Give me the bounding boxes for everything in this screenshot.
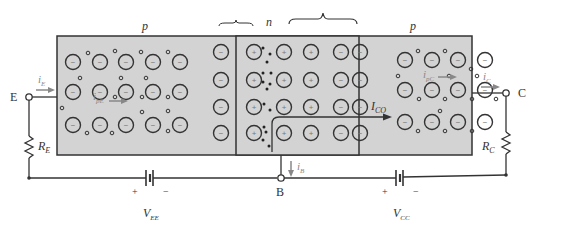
collector-label: C [518,86,526,100]
emitter-terminal[interactable] [26,94,32,100]
svg-text:+: + [309,76,314,85]
svg-text:+: + [309,129,314,138]
svg-text:−: − [151,88,156,97]
svg-text:−: − [219,76,224,85]
vee-label: VEE [143,206,160,222]
electron [270,72,273,75]
svg-text:−: − [430,118,435,127]
svg-text:+: + [282,103,287,112]
electron [262,81,265,84]
svg-text:+: + [252,48,257,57]
svg-text:−: − [219,48,224,57]
svg-text:+: + [309,48,314,57]
re-resistor-icon [25,136,33,158]
svg-text:−: − [483,56,488,65]
electron [262,47,265,50]
vcc-battery-icon [396,170,403,186]
hole [475,74,479,78]
electron [268,145,271,148]
electron [266,88,269,91]
electron [269,83,272,86]
svg-text:−: − [483,118,488,127]
svg-text:−: − [339,76,344,85]
ic-arrowhead-icon [493,84,500,90]
svg-text:−: − [124,88,129,97]
electron [262,72,265,75]
svg-text:−: − [403,118,408,127]
emitter-label: E [10,90,17,104]
vcc-plus: + [382,186,388,197]
hole [494,97,498,101]
svg-text:−: − [358,48,363,57]
svg-text:−: − [430,56,435,65]
svg-text:−: − [178,88,183,97]
rc-label: RC [481,139,495,155]
svg-text:−: − [358,103,363,112]
rc-resistor-icon [502,132,510,154]
electron [263,126,266,129]
svg-text:−: − [403,86,408,95]
vee-plus: + [132,186,138,197]
svg-text:−: − [403,56,408,65]
svg-text:−: − [71,88,76,97]
vee-minus: − [163,186,169,197]
electron [266,61,269,64]
n-region-label: n [266,15,272,29]
svg-text:+: + [282,76,287,85]
electron [269,109,272,112]
svg-text:−: − [339,48,344,57]
ie-label: iE [38,73,46,88]
depletion-brace-collector [289,13,357,24]
collector-terminal[interactable] [503,90,509,96]
svg-text:−: − [456,86,461,95]
p-region-right-label: p [409,19,416,33]
svg-text:−: − [456,118,461,127]
vcc-minus: − [413,186,419,197]
svg-text:−: − [71,121,76,130]
acceptor-ion: − [478,53,493,68]
svg-text:−: − [456,56,461,65]
base-label: B [276,185,284,199]
svg-text:−: − [219,129,224,138]
electron [265,131,268,134]
svg-text:−: − [339,103,344,112]
svg-text:−: − [151,121,156,130]
depletion-brace-emitter [219,20,253,26]
re-label: RE [37,139,50,155]
ib-arrowhead-icon [288,170,294,177]
transistor-diagram: p n p −−−−−−−−−−−−−−−−−−−++++++++++++−−−… [0,0,562,234]
electron [269,53,272,56]
ib-label: iB [297,160,305,175]
svg-text:−: − [339,129,344,138]
vee-battery-icon [146,170,153,186]
svg-text:−: − [178,121,183,130]
bottom-wire-right-b [403,175,506,177]
svg-text:−: − [358,129,363,138]
svg-text:+: + [282,48,287,57]
svg-text:−: − [219,103,224,112]
ie-arrowhead-icon [48,87,55,93]
base-terminal[interactable] [278,175,284,181]
svg-text:+: + [252,129,257,138]
svg-text:−: − [71,58,76,67]
svg-text:−: − [430,86,435,95]
svg-text:−: − [124,121,129,130]
svg-text:−: − [98,88,103,97]
svg-text:−: − [98,58,103,67]
vcc-label: VCC [393,206,410,222]
svg-text:−: − [124,58,129,67]
p-region-left-label: p [141,19,148,33]
svg-text:−: − [98,121,103,130]
svg-text:+: + [252,76,257,85]
svg-text:−: − [151,58,156,67]
svg-text:+: + [309,103,314,112]
electron [263,103,266,106]
svg-text:+: + [252,103,257,112]
svg-text:−: − [178,58,183,67]
svg-text:−: − [358,76,363,85]
electron [262,139,265,142]
svg-text:+: + [282,129,287,138]
acceptor-ion: − [478,115,493,130]
